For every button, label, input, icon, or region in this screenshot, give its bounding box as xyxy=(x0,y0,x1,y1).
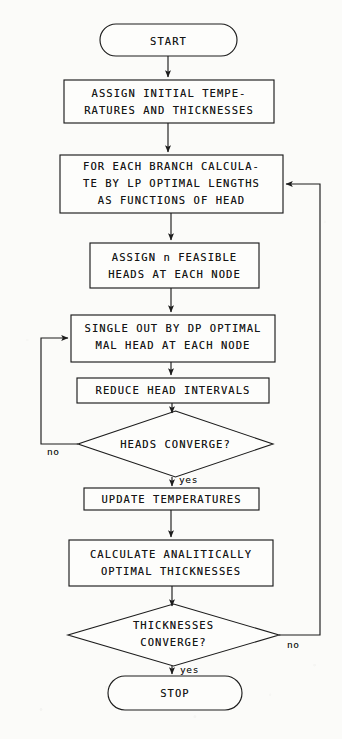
label-thicknesses-no: no xyxy=(287,639,300,650)
text-assign-heads-line1: ASSIGN n FEASIBLE xyxy=(90,249,259,266)
text-start: START xyxy=(100,33,237,50)
text-thicknesses-converge-line2: CONVERGE? xyxy=(68,634,279,651)
flowchart-canvas: START ASSIGN INITIAL TEMPE- RATURES AND … xyxy=(0,0,342,739)
label-thicknesses-yes: yes xyxy=(180,664,199,675)
text-for-each-branch-line1: FOR EACH BRANCH CALCULA- xyxy=(60,158,283,175)
text-calculate-line2: OPTIMAL THICKNESSES xyxy=(69,563,273,580)
text-single-out-line1: SINGLE OUT BY DP OPTIMAL xyxy=(71,320,275,337)
text-assign-initial-line2: RATURES AND THICKNESSES xyxy=(64,102,274,119)
label-heads-yes: yes xyxy=(179,474,198,485)
text-update-temperatures: UPDATE TEMPERATURES xyxy=(84,491,259,508)
text-single-out-line2: MAL HEAD AT EACH NODE xyxy=(71,337,275,354)
text-calculate-line1: CALCULATE ANALITICALLY xyxy=(69,546,273,563)
edge-thicknesses-no-feedback xyxy=(279,184,320,635)
label-heads-no: no xyxy=(47,446,60,457)
text-stop: STOP xyxy=(108,685,242,702)
text-thicknesses-converge-line1: THICKNESSES xyxy=(68,617,279,634)
text-for-each-branch-line3: AS FUNCTIONS OF HEAD xyxy=(60,192,283,209)
text-assign-heads-line2: HEADS AT EACH NODE xyxy=(90,266,259,283)
text-assign-initial-line1: ASSIGN INITIAL TEMPE- xyxy=(64,85,274,102)
text-reduce-intervals: REDUCE HEAD INTERVALS xyxy=(77,382,269,399)
text-for-each-branch-line2: TE BY LP OPTIMAL LENGTHS xyxy=(60,175,283,192)
text-heads-converge: HEADS CONVERGE? xyxy=(78,436,273,453)
